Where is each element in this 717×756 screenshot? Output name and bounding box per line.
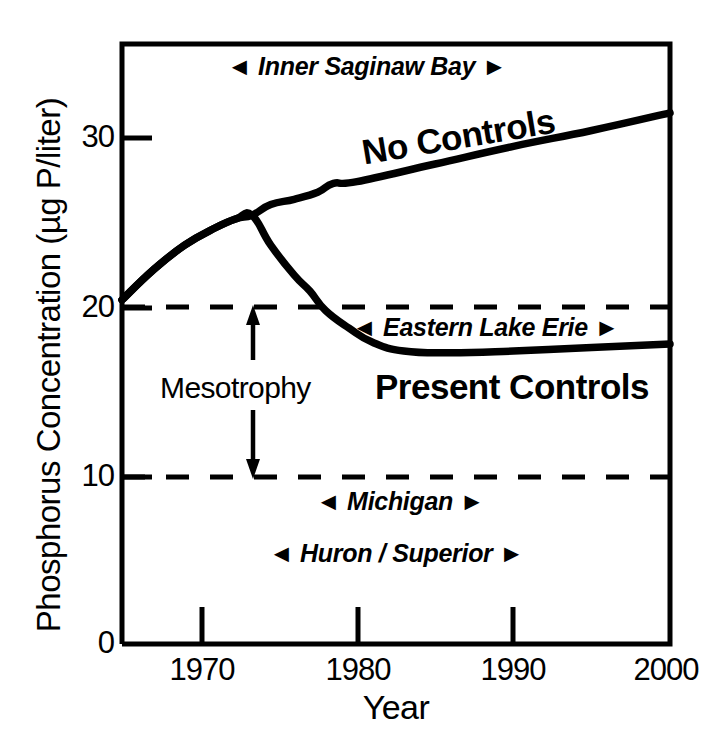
arrow-left-icon: ◄ (316, 487, 340, 515)
mesotrophy-arrow-down (246, 410, 260, 479)
annotation-michigan-text: Michigan (347, 487, 453, 515)
series-label-present-controls: Present Controls (375, 367, 649, 407)
annotation-mesotrophy-label: Mesotrophy (160, 371, 311, 405)
annotation-huron-superior: ◄ Huron / Superior ► (269, 539, 524, 568)
arrow-right-icon: ► (482, 52, 506, 80)
arrow-right-icon: ► (460, 487, 484, 515)
annotation-huron-superior-text: Huron / Superior (300, 539, 492, 567)
arrow-right-icon: ► (595, 313, 619, 341)
mesotrophy-arrow-up (246, 305, 260, 360)
annotation-michigan: ◄ Michigan ► (316, 487, 484, 516)
arrow-left-icon: ◄ (352, 313, 376, 341)
phosphorus-concentration-chart: Phosphorus Concentration (µg P/liter) 30… (0, 0, 717, 756)
annotation-eastern-lake-erie: ◄ Eastern Lake Erie ► (352, 313, 619, 342)
arrow-left-icon: ◄ (269, 539, 293, 567)
annotation-inner-saginaw-bay-text: Inner Saginaw Bay (258, 52, 475, 80)
annotation-inner-saginaw-bay: ◄ Inner Saginaw Bay ► (227, 52, 506, 81)
arrow-right-icon: ► (499, 539, 523, 567)
arrow-left-icon: ◄ (227, 52, 251, 80)
annotation-eastern-lake-erie-text: Eastern Lake Erie (383, 313, 588, 341)
